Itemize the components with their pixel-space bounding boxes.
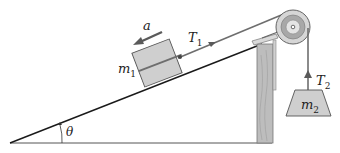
incline-pulley-diagram: a T1 m1 T2 m2 θ: [0, 0, 340, 153]
block-m1: [132, 37, 188, 87]
tension1-subscript: 1: [197, 38, 203, 48]
acceleration-symbol: a: [143, 18, 151, 33]
acceleration-label: a: [143, 19, 151, 32]
mass2-symbol: m: [301, 97, 313, 112]
angle-symbol: θ: [66, 125, 73, 139]
mass2-label: m2: [301, 98, 319, 115]
tension1-symbol: T: [188, 30, 197, 45]
mass1-subscript: 1: [130, 69, 136, 79]
mass2-subscript: 2: [313, 105, 319, 115]
rope-knot: [178, 55, 182, 59]
mass1-symbol: m: [118, 61, 130, 76]
angle-label: θ: [66, 126, 73, 138]
post-bracket: [273, 40, 276, 90]
tension1-label: T1: [188, 31, 202, 48]
tension2-symbol: T: [316, 73, 325, 88]
mass1-label: m1: [118, 62, 136, 79]
tension2-arrowhead-icon: [304, 70, 312, 78]
acceleration-arrowhead-icon: [133, 37, 144, 45]
diagram-canvas: [0, 0, 340, 153]
acceleration-arrow-shaft: [140, 32, 162, 42]
angle-arc: [60, 125, 62, 143]
tension2-subscript: 2: [325, 81, 331, 91]
pulley: [276, 10, 310, 44]
wooden-post: [257, 44, 273, 143]
tension2-label: T2: [316, 74, 330, 91]
